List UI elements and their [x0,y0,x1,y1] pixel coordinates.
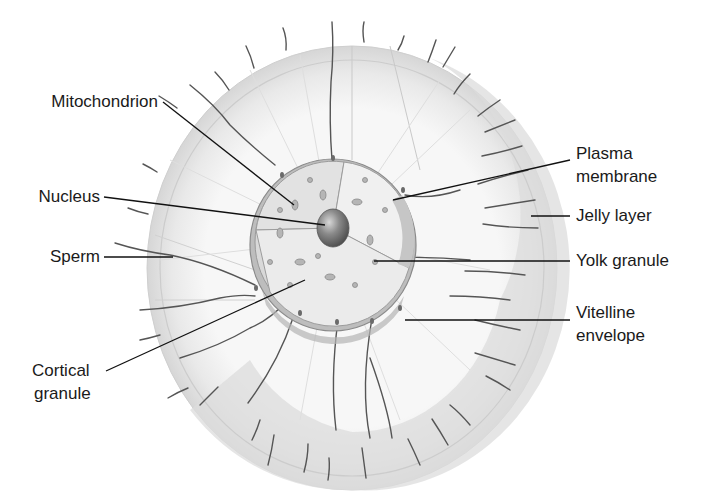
nucleus-shape [317,209,349,247]
label-sperm: Sperm [26,247,100,267]
label-jelly-layer: Jelly layer [576,206,652,226]
label-yolk-granule: Yolk granule [576,251,669,271]
label-mitochondrion: Mitochondrion [26,92,158,112]
label-cortical-granule-line1: Cortical [32,361,90,381]
egg-diagram: Mitochondrion Nucleus Sperm Cortical gra… [0,0,706,501]
label-plasma-membrane-line2: membrane [576,167,657,187]
label-plasma-membrane-line1: Plasma [576,144,633,164]
label-vitelline-envelope-line1: Vitelline [576,303,635,323]
label-vitelline-envelope-line2: envelope [576,326,645,346]
egg-cell [250,155,416,344]
label-nucleus: Nucleus [26,187,100,207]
label-cortical-granule-line2: granule [34,384,91,404]
